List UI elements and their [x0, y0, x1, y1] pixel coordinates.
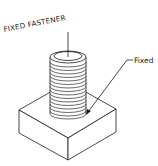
diagram-title-label: FIXED FASTENER: [3, 13, 67, 34]
bolt-body: [50, 57, 86, 117]
fixed-fastener-diagram: FIXED FASTENER: [0, 0, 158, 166]
fixed-label: Fixed: [134, 56, 154, 65]
threaded-bolt: [50, 32, 86, 119]
